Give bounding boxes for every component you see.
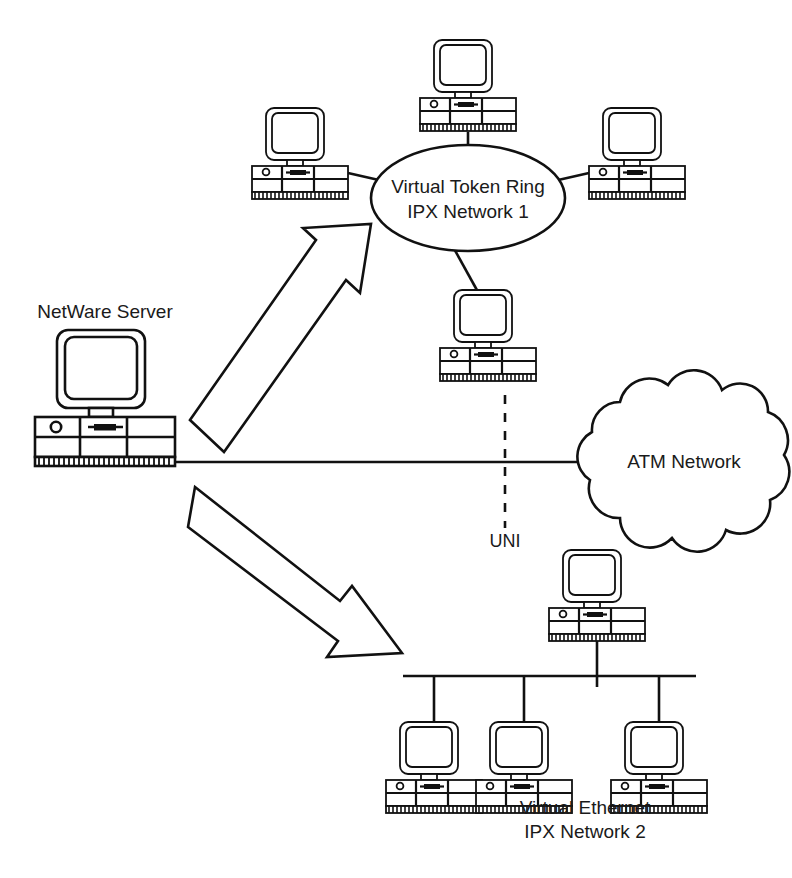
atm-network-label: ATM Network <box>627 451 741 472</box>
ethernet-label-line1: Virtual Ethernet <box>520 797 651 818</box>
workstation-token-ring-top <box>420 40 516 131</box>
token-ring-label-line1: Virtual Token Ring <box>391 176 545 197</box>
network-diagram: Virtual Token Ring IPX Network 1 ATM Net… <box>0 0 792 878</box>
workstation-token-ring-bottom <box>440 290 536 381</box>
virtual-token-ring-ellipse <box>371 145 565 251</box>
workstation-ethernet-1 <box>386 722 482 813</box>
netware-server-label: NetWare Server <box>37 301 173 322</box>
block-arrow-to-token-ring <box>190 224 371 452</box>
workstation-token-ring-right <box>589 108 685 199</box>
ethernet-label-line2: IPX Network 2 <box>524 821 645 842</box>
workstation-token-ring-left <box>252 108 348 199</box>
diagram-canvas: Virtual Token Ring IPX Network 1 ATM Net… <box>0 0 792 878</box>
uni-label: UNI <box>490 531 521 551</box>
netware-server-icon <box>35 330 175 466</box>
token-ring-label-line2: IPX Network 1 <box>407 201 528 222</box>
block-arrow-to-ethernet <box>188 487 402 657</box>
workstation-ethernet-top <box>549 550 645 641</box>
